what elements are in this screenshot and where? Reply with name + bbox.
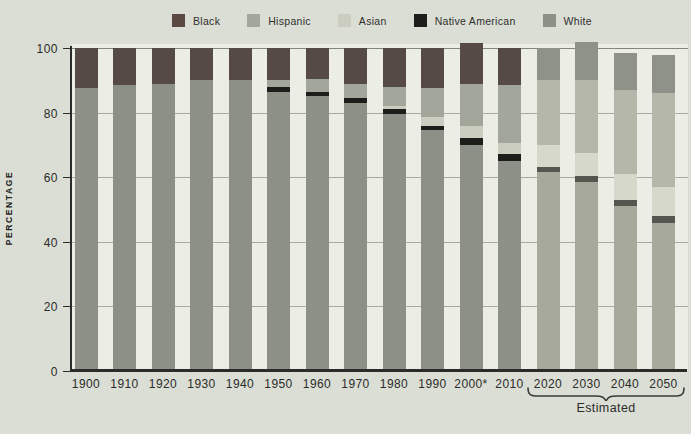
scanned-textbook-chart-page: BlackHispanicAsianNative AmericanWhite 0… [0, 0, 691, 434]
y-tick-40 [63, 242, 70, 243]
bar-2010-segment-black [498, 48, 521, 85]
bar-1920-segment-white [152, 84, 175, 372]
bar-1920-segment-black [152, 48, 175, 84]
bar-2040-segment-white [614, 206, 637, 371]
bar-1940 [229, 48, 252, 371]
bar-2010-segment-hispanic [498, 85, 521, 143]
bar-2050-segment-white [652, 223, 675, 372]
y-tick-60 [63, 177, 70, 178]
bar-2020-segment-white [537, 172, 560, 371]
legend-item-hispanic: Hispanic [247, 14, 311, 27]
bar-1990-segment-black [421, 48, 444, 88]
bar-1930-segment-black [190, 48, 213, 80]
bar-2010 [498, 48, 521, 371]
y-tick-label-0: 0 [24, 365, 58, 379]
bar-1930-segment-white [190, 80, 213, 371]
bar-1970-segment-hispanic [344, 84, 367, 99]
estimated-label: Estimated [551, 401, 661, 415]
bar-1950 [267, 48, 290, 371]
bar-1930 [190, 48, 213, 371]
y-tick-label-100: 100 [24, 42, 58, 56]
bar-1980 [383, 48, 406, 371]
bar-2020 [537, 48, 560, 371]
bar-2030-segment-hispanic [575, 80, 598, 153]
bar-2040-segment-hispanic [614, 90, 637, 174]
legend-label-hispanic: Hispanic [268, 15, 311, 27]
bar-2040 [614, 53, 637, 371]
estimated-brace [527, 387, 685, 401]
bar-1940-segment-white [229, 80, 252, 371]
legend-swatch-asian [338, 14, 351, 27]
bar-2020-segment-asian [537, 145, 560, 168]
bar-2050-segment-hispanic [652, 93, 675, 187]
bar-2030-segment-asian [575, 153, 598, 176]
x-label-1970: 1970 [334, 377, 378, 391]
y-tick-label-20: 20 [24, 300, 58, 314]
x-label-1920: 1920 [141, 377, 185, 391]
legend-swatch-white [543, 14, 556, 27]
x-label-1950: 1950 [257, 377, 301, 391]
bar-1990-segment-asian [421, 117, 444, 125]
y-tick-label-40: 40 [24, 236, 58, 250]
legend-swatch-native-american [414, 14, 427, 27]
y-axis-line [70, 46, 72, 372]
bar-1990-segment-hispanic [421, 88, 444, 117]
bar-2000-segment-black [460, 43, 483, 83]
bar-1950-segment-white [267, 92, 290, 371]
bar-2000-segment-hispanic [460, 84, 483, 126]
bar-1970-segment-white [344, 103, 367, 371]
y-tick-20 [63, 306, 70, 307]
bar-1990-segment-white [421, 130, 444, 371]
bar-1920 [152, 48, 175, 371]
bar-1980-segment-white [383, 114, 406, 371]
legend-item-black: Black [172, 14, 220, 27]
bar-2030-segment-white [575, 182, 598, 371]
bar-1910-segment-white [113, 85, 136, 371]
bar-1990 [421, 48, 444, 371]
x-label-2010: 2010 [488, 377, 532, 391]
legend-label-black: Black [193, 15, 220, 27]
bar-1970-segment-black [344, 48, 367, 84]
x-axis-baseline [70, 369, 687, 372]
x-label-1940: 1940 [218, 377, 262, 391]
legend-swatch-black [172, 14, 185, 27]
bar-2050-segment-asian [652, 187, 675, 216]
y-tick-label-60: 60 [24, 171, 58, 185]
bar-1900 [75, 48, 98, 371]
legend-swatch-hispanic [247, 14, 260, 27]
y-axis-title: PERCENTAGE [4, 165, 14, 251]
bar-1960-segment-hispanic [306, 79, 329, 92]
bar-2020-segment-hispanic [537, 80, 560, 145]
bar-1940-segment-black [229, 48, 252, 80]
chart-legend: BlackHispanicAsianNative AmericanWhite [172, 14, 592, 27]
y-tick-0 [63, 371, 70, 372]
bar-2030-segment-black [575, 42, 598, 81]
y-tick-100 [63, 48, 70, 49]
legend-label-white: White [564, 15, 592, 27]
legend-item-native-american: Native American [414, 14, 516, 27]
legend-item-asian: Asian [338, 14, 387, 27]
y-tick-80 [63, 113, 70, 114]
bar-1910-segment-black [113, 48, 136, 85]
bar-2050 [652, 55, 675, 372]
x-label-1960: 1960 [295, 377, 339, 391]
legend-item-white: White [543, 14, 592, 27]
x-label-1980: 1980 [372, 377, 416, 391]
bar-2040-segment-black [614, 53, 637, 90]
bar-1960-segment-white [306, 96, 329, 371]
bar-1960-segment-black [306, 48, 329, 79]
y-tick-label-80: 80 [24, 107, 58, 121]
bar-1980-segment-black [383, 48, 406, 87]
x-label-1990: 1990 [411, 377, 455, 391]
bar-1950-segment-black [267, 48, 290, 80]
bar-1960 [306, 48, 329, 371]
bar-1900-segment-white [75, 88, 98, 371]
bar-1900-segment-black [75, 48, 98, 88]
bar-2000-segment-white [460, 145, 483, 371]
x-label-1930: 1930 [180, 377, 224, 391]
x-label-1900: 1900 [64, 377, 108, 391]
bar-2000 [460, 43, 483, 371]
legend-label-asian: Asian [359, 15, 387, 27]
bar-2010-segment-asian [498, 143, 521, 154]
bar-1910 [113, 48, 136, 371]
